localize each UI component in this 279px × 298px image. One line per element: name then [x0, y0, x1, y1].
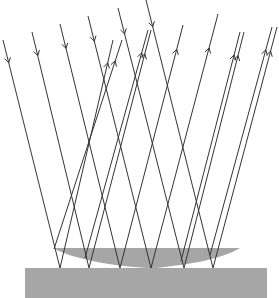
incident-ray — [32, 32, 89, 268]
incident-rays — [3, 0, 213, 268]
incident-ray — [118, 8, 184, 268]
reflected-ray — [54, 40, 122, 249]
reflected-ray — [151, 14, 218, 268]
reflected-ray — [184, 32, 244, 268]
reflected-ray — [120, 25, 183, 268]
reflected-ray — [85, 30, 148, 258]
substrate-slab — [25, 268, 267, 298]
reflected-ray — [213, 27, 277, 268]
reflected-ray — [60, 40, 113, 268]
reflected-ray — [181, 32, 240, 261]
reflected-rays — [54, 14, 277, 268]
incident-ray — [3, 40, 60, 268]
reflected-ray — [210, 27, 272, 255]
reflection-diagram — [0, 0, 279, 298]
